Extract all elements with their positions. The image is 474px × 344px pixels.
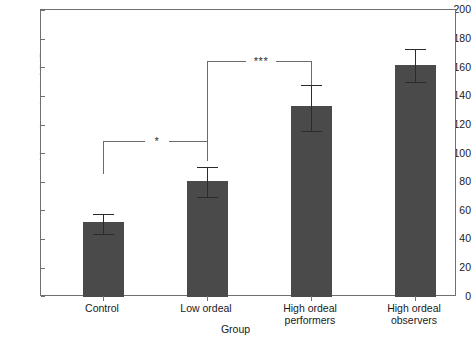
x-tick-label-high-ordeal-observers-line1: High ordeal (354, 302, 474, 314)
y-tick-mark-160 (41, 67, 45, 68)
x-tick-label-control: Control (42, 302, 162, 314)
bar-low-ordeal (187, 181, 228, 297)
y-tick-mark-180 (41, 39, 45, 40)
significance-label-low: * (145, 137, 169, 145)
error-bar-cap-lower-control (93, 234, 114, 235)
significance-bracket-high-leg-left (207, 61, 208, 141)
significance-label-high: *** (246, 57, 276, 65)
y-tick-mark-100 (41, 153, 45, 154)
error-bar-stem-high-ordeal-performers (311, 85, 312, 131)
bar-high-ordeal-observers (395, 65, 436, 297)
x-tick-label-low-ordeal: Low ordeal (146, 302, 266, 314)
y-tick-mark-60 (41, 210, 45, 211)
error-bar-cap-upper-high-ordeal-performers (301, 85, 322, 86)
plot-area: * *** (40, 9, 456, 296)
y-tick-mark-20 (41, 268, 45, 269)
error-bar-cap-upper-control (93, 214, 114, 215)
x-tick-mark-control (103, 296, 104, 301)
y-tick-mark-140 (41, 96, 45, 97)
x-tick-label-high-ordeal-performers-line1: High ordeal (250, 302, 370, 314)
y-tick-mark-200 (41, 10, 45, 11)
error-bar-stem-high-ordeal-observers (415, 49, 416, 82)
error-bar-stem-control (103, 214, 104, 234)
error-bar-stem-low-ordeal (207, 167, 208, 197)
x-tick-mark-high-ordeal-observers (415, 296, 416, 301)
significance-bracket-low-leg-right (207, 141, 208, 161)
bar-high-ordeal-performers (291, 106, 332, 297)
significance-bracket-high-leg-right (311, 61, 312, 85)
error-bar-cap-lower-low-ordeal (197, 197, 218, 198)
x-tick-mark-high-ordeal-performers (311, 296, 312, 301)
y-tick-mark-0 (41, 296, 45, 297)
error-bar-cap-lower-high-ordeal-observers (405, 82, 426, 83)
x-tick-mark-low-ordeal (207, 296, 208, 301)
x-axis-title: Group (0, 323, 471, 335)
y-tick-mark-120 (41, 125, 45, 126)
error-bar-cap-upper-low-ordeal (197, 167, 218, 168)
y-tick-mark-80 (41, 182, 45, 183)
error-bar-cap-lower-high-ordeal-performers (301, 131, 322, 132)
significance-bracket-low-leg-left (103, 141, 104, 174)
x-tick-label-low-ordeal-line1: Low ordeal (146, 302, 266, 314)
y-tick-mark-40 (41, 239, 45, 240)
x-tick-label-control-line1: Control (42, 302, 162, 314)
error-bar-cap-upper-high-ordeal-observers (405, 49, 426, 50)
